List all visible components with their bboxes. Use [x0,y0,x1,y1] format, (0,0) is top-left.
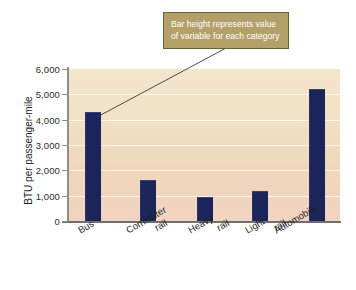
y-axis-title: BTU per passenger-mile [23,81,34,221]
y-tick-mark-0 [62,221,68,222]
y-tick-label-6000: 6,000 [36,64,60,75]
plot-area [68,69,340,221]
bar-chart-figure: 6,000 5,000 4,000 3,000 2,000 1,000 0 BT… [0,0,356,290]
y-tick-label-5000: 5,000 [36,89,60,100]
y-tick-label-2000: 2,000 [36,165,60,176]
y-tick-mark-2000 [62,170,68,171]
y-tick-label-3000: 3,000 [36,140,60,151]
y-tick-mark-1000 [62,196,68,197]
gridline-5000 [68,94,340,95]
y-tick-label-0: 0 [55,216,60,227]
bar-bus [85,112,101,221]
gridline-2000 [68,170,340,171]
annotation-callout: Bar height represents value of variable … [163,12,289,49]
annotation-line-2: of variable for each category [171,30,282,42]
annotation-line-1: Bar height represents value [171,18,282,30]
y-tick-label-4000: 4,000 [36,114,60,125]
y-tick-mark-4000 [62,120,68,121]
y-tick-mark-5000 [62,94,68,95]
y-tick-mark-6000 [62,69,68,70]
bar-automobile [309,89,325,221]
gridline-3000 [68,145,340,146]
gridline-4000 [68,120,340,121]
y-tick-label-1000: 1,000 [36,190,60,201]
y-tick-mark-3000 [62,145,68,146]
